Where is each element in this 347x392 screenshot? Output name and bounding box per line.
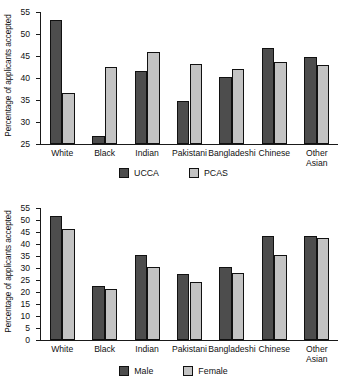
y-tick-mark — [36, 208, 40, 209]
legend-swatch-icon — [189, 168, 199, 178]
bar-ucca-chinese — [262, 48, 275, 144]
x-category-label: Indian — [135, 344, 158, 354]
bar-pcas-white — [62, 93, 75, 144]
bar-male-white — [50, 216, 63, 340]
legend-1: UCCAPCAS — [0, 168, 347, 178]
bar-female-chinese — [274, 255, 287, 340]
bar-pcas-chinese — [274, 62, 287, 144]
y-tick-mark — [36, 268, 40, 269]
x-category-label: Other Asian — [300, 344, 334, 364]
bar-female-white — [62, 229, 75, 340]
legend-label: PCAS — [204, 168, 228, 178]
x-axis-line — [40, 144, 338, 145]
bar-male-black — [92, 286, 105, 340]
x-category-label: Black — [94, 148, 115, 158]
chart-male-female: Percentage of applicants accepted 051015… — [0, 196, 347, 392]
x-category-label: Indian — [135, 148, 158, 158]
y-tick-mark — [36, 12, 40, 13]
legend-item-ucca: UCCA — [119, 168, 159, 178]
x-category-label: Chinese — [259, 148, 291, 158]
bar-female-other-asian — [317, 238, 330, 340]
y-tick-label: 50 — [20, 216, 30, 225]
x-category-label: Bangladeshi — [208, 148, 255, 158]
y-tick-label: 25 — [20, 276, 30, 285]
y-tick-label: 0 — [25, 336, 30, 345]
y-tick-label: 30 — [20, 118, 30, 127]
x-category-label: Chinese — [259, 344, 291, 354]
y-tick-mark — [36, 292, 40, 293]
y-tick-mark — [36, 56, 40, 57]
x-category-label: Pakistani — [172, 148, 207, 158]
bar-ucca-other-asian — [304, 57, 317, 144]
y-tick-label: 40 — [20, 74, 30, 83]
bar-pcas-bangladeshi — [232, 69, 245, 144]
x-category-label: Pakistani — [172, 344, 207, 354]
bar-ucca-bangladeshi — [219, 77, 232, 144]
y-axis-title: Percentage of applicants accepted — [0, 196, 16, 346]
y-tick-label: 45 — [20, 52, 30, 61]
y-tick-label: 45 — [20, 228, 30, 237]
legend-swatch-icon — [119, 366, 129, 376]
y-tick-mark — [36, 256, 40, 257]
bar-pcas-other-asian — [317, 65, 330, 144]
y-tick-label: 30 — [20, 264, 30, 273]
x-category-label: Other Asian — [300, 148, 334, 168]
bar-female-black — [105, 289, 118, 340]
y-tick-mark — [36, 232, 40, 233]
bar-male-chinese — [262, 236, 275, 340]
y-tick-mark — [36, 280, 40, 281]
bar-male-other-asian — [304, 236, 317, 340]
y-tick-label: 25 — [20, 140, 30, 149]
x-category-label: White — [51, 148, 73, 158]
y-tick-mark — [36, 78, 40, 79]
bar-pcas-pakistani — [190, 64, 203, 144]
bar-female-bangladeshi — [232, 273, 245, 340]
x-axis-line — [40, 340, 338, 341]
y-tick-mark — [36, 100, 40, 101]
bar-male-indian — [135, 255, 148, 340]
y-tick-label: 15 — [20, 300, 30, 309]
y-tick-mark — [36, 316, 40, 317]
y-tick-label: 55 — [20, 8, 30, 17]
plot-area-1: 25303540455055 — [40, 12, 338, 144]
x-category-label: Black — [94, 344, 115, 354]
legend-2: MaleFemale — [0, 366, 347, 376]
legend-swatch-icon — [183, 366, 193, 376]
bar-ucca-indian — [135, 71, 148, 144]
bar-male-pakistani — [177, 274, 190, 340]
y-tick-label: 5 — [25, 324, 30, 333]
y-tick-mark — [36, 244, 40, 245]
y-tick-mark — [36, 220, 40, 221]
bar-ucca-black — [92, 136, 105, 144]
bar-pcas-black — [105, 67, 118, 144]
x-category-label: Bangladeshi — [208, 344, 255, 354]
legend-item-female: Female — [183, 366, 227, 376]
y-tick-mark — [36, 34, 40, 35]
bar-ucca-pakistani — [177, 101, 190, 144]
y-tick-label: 20 — [20, 288, 30, 297]
legend-label: Male — [134, 366, 153, 376]
plot-area-2: 0510152025303540455055 — [40, 208, 338, 340]
y-tick-label: 50 — [20, 30, 30, 39]
y-tick-label: 40 — [20, 240, 30, 249]
y-tick-mark — [36, 122, 40, 123]
chart-ucca-pcas: Percentage of applicants accepted 253035… — [0, 0, 347, 196]
y-tick-mark — [36, 328, 40, 329]
y-axis-title: Percentage of applicants accepted — [0, 0, 16, 150]
y-tick-label: 35 — [20, 96, 30, 105]
y-tick-mark — [36, 304, 40, 305]
legend-item-male: Male — [119, 366, 153, 376]
y-tick-label: 35 — [20, 252, 30, 261]
y-tick-mark — [36, 340, 40, 341]
legend-label: Female — [198, 366, 227, 376]
y-tick-label: 10 — [20, 312, 30, 321]
bar-group-2 — [41, 208, 338, 340]
legend-item-pcas: PCAS — [189, 168, 228, 178]
legend-label: UCCA — [134, 168, 159, 178]
bar-female-indian — [147, 267, 160, 340]
bar-ucca-white — [50, 20, 63, 144]
y-tick-mark — [36, 144, 40, 145]
bar-male-bangladeshi — [219, 267, 232, 340]
bar-pcas-indian — [147, 52, 160, 144]
bar-female-pakistani — [190, 282, 203, 340]
